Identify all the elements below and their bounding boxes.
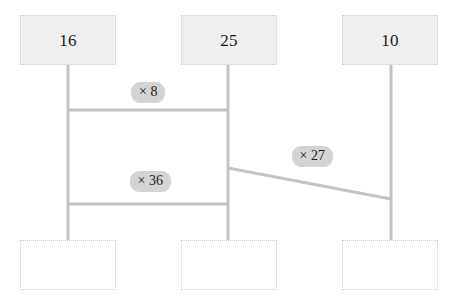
node-label-top-left: 16 [59,32,76,49]
edge-lines [68,65,391,240]
multiplication-ladder-diagram: 162510 × 8× 36× 27 [0,0,457,305]
edge-label-label-times-36: × 36 [130,171,171,192]
edge-label-label-times-8: × 8 [131,82,165,103]
edge-label-label-times-27: × 27 [292,146,333,167]
node-bottom-middle[interactable] [181,240,277,290]
node-label-top-middle: 25 [220,32,237,49]
node-bottom-right[interactable] [342,240,438,290]
node-label-top-right: 10 [381,32,398,49]
node-top-right[interactable]: 10 [342,15,438,65]
node-top-left[interactable]: 16 [20,15,116,65]
node-top-middle[interactable]: 25 [181,15,277,65]
edge-diagonal-times-27 [228,168,391,199]
node-bottom-left[interactable] [20,240,116,290]
